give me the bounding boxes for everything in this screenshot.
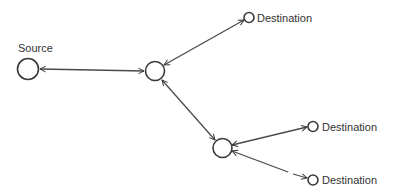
node-router1 <box>146 62 165 81</box>
node-dest2 <box>308 122 318 132</box>
network-diagram: Source Destination Destination Destinati… <box>0 0 396 188</box>
edge-router2-dest2 <box>232 127 307 145</box>
node-source <box>18 59 39 80</box>
label-source: Source <box>18 42 53 54</box>
label-dest1: Destination <box>257 12 312 24</box>
edge-source-router1 <box>40 69 144 71</box>
edge-router2-dest3-tail <box>293 174 307 178</box>
label-dest3: Destination <box>322 174 377 186</box>
node-router2 <box>213 139 232 158</box>
label-dest2: Destination <box>322 121 377 133</box>
edge-router1-router2 <box>162 80 215 140</box>
edge-router2-dest3 <box>232 151 288 172</box>
node-dest3 <box>308 175 318 185</box>
edge-router1-dest1 <box>164 20 244 65</box>
node-dest1 <box>244 13 254 23</box>
